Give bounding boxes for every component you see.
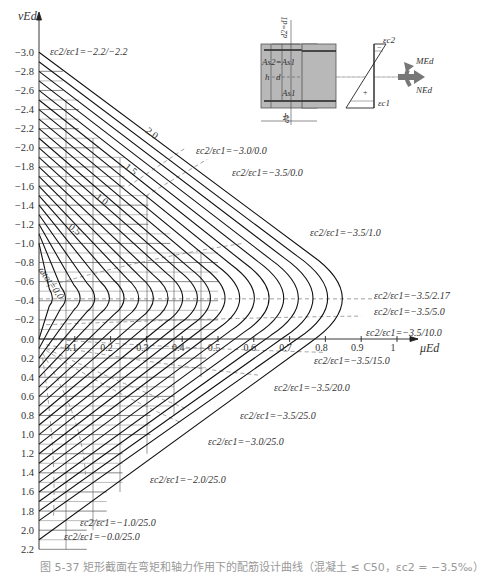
y-tick-label: −0.2 (15, 314, 34, 325)
x-tick-label: 0.8 (315, 342, 328, 353)
y-tick-label: 1.6 (21, 486, 34, 497)
y-tick-label: 1.8 (21, 506, 34, 517)
cross-section-diagram: As2=As1 As1 b h d d2=d1 d1 − + εc2 εc1 M… (261, 17, 434, 125)
y-tick-label: 2.2 (21, 544, 34, 555)
omega-label-0: ωtot=0.0 (36, 265, 66, 302)
y-tick-label: 0.4 (21, 372, 35, 383)
x-tick-label: 0.1 (65, 342, 78, 353)
y-tick-label: −1.8 (15, 161, 34, 172)
x-tick-label: 0.7 (279, 342, 292, 353)
x-tick-label: 0.2 (100, 342, 113, 353)
x-axis-label: μEd (419, 341, 440, 355)
y-tick-labels: −3.0−2.8−2.6−2.4−2.2−2.0−1.8−1.6−1.4−1.2… (15, 47, 35, 555)
x-tick-label: 0.4 (172, 342, 185, 353)
strain-label-3.5-2.17: εc2/εc1=−3.5/2.17 (374, 290, 451, 301)
figure-caption: 图 5-37 矩形截面在弯矩和轴力作用下的配筋设计曲线（混凝土 ≤ C50，εc… (40, 558, 481, 574)
strain-label-3.5-20.0: εc2/εc1=−3.5/20.0 (274, 382, 350, 393)
x-tick-label: 0.9 (351, 342, 364, 353)
y-tick-label: −1.0 (15, 238, 34, 249)
y-tick-label: 0.0 (21, 334, 34, 345)
m-ed-label: MEd (415, 56, 434, 66)
axial-arrow-shaft-icon (398, 74, 414, 80)
strain-label-3.0-0.0: εc2/εc1=−3.0/0.0 (196, 145, 267, 156)
ec2-label: εc2 (383, 35, 396, 45)
y-tick-label: −1.4 (15, 200, 35, 211)
strain-label-3.5-0.0: εc2/εc1=−3.5/0.0 (232, 167, 303, 178)
d1-label: d1 (282, 115, 291, 123)
ec1-label: εc1 (378, 98, 390, 108)
x-tick-label: 0.6 (244, 342, 257, 353)
d2-label: d2=d1 (280, 17, 289, 38)
y-tick-label: 1.4 (21, 467, 35, 478)
y-tick-label: −2.4 (15, 104, 35, 115)
y-tick-label: 1.0 (21, 429, 34, 440)
strain-label-top: εc2/εc1=−2.2/−2.2 (50, 46, 128, 57)
plus-sign: + (363, 88, 368, 97)
y-tick-label: −1.2 (15, 219, 34, 230)
omega-label-1.5: 1.5 (123, 161, 140, 177)
strain-label-3.5-10.0: εc2/εc1=−3.5/10.0 (366, 327, 442, 338)
x-tick-label: 1 (391, 342, 396, 353)
omega-label-0.5: 0.5 (67, 221, 84, 237)
strain-label-2.0-25.0: εc2/εc1=−2.0/25.0 (150, 474, 226, 485)
axial-arrowhead-icon (414, 70, 425, 84)
moment-arrowhead-icon (404, 62, 414, 72)
y-tick-label: −2.6 (15, 85, 34, 96)
strain-label-1.0-25.0: εc2/εc1=−1.0/25.0 (80, 517, 156, 528)
n-ed-label: NEd (415, 85, 433, 95)
x-tick-labels: 0.10.20.30.40.50.60.70.80.91 (65, 342, 396, 353)
strain-label-3.5-5.0: εc2/εc1=−3.5/5.0 (374, 306, 445, 317)
h-label: h (265, 72, 270, 82)
y-tick-label: −0.4 (15, 295, 35, 306)
y-tick-label: −3.0 (15, 47, 34, 58)
y-tick-label: −2.8 (15, 66, 34, 77)
as2-label: As2=As1 (261, 57, 295, 67)
minus-sign: − (377, 43, 382, 52)
y-tick-label: 0.6 (21, 391, 34, 402)
y-tick-label: −1.6 (15, 181, 34, 192)
y-tick-label: 1.2 (21, 448, 34, 459)
strain-label-3.5-1.0: εc2/εc1=−3.5/1.0 (310, 227, 381, 238)
as1-label: As1 (281, 88, 296, 98)
y-tick-label: 2.0 (21, 525, 34, 536)
y-tick-label: −2.0 (15, 142, 34, 153)
y-axis-label: νEd (18, 9, 38, 23)
y-tick-label: −0.6 (15, 276, 34, 287)
y-tick-label: 0.8 (21, 410, 34, 421)
strain-label-0.0-25.0: εc2/εc1=−0.0/25.0 (64, 531, 140, 542)
x-tick-label: 0.5 (208, 342, 221, 353)
strain-label-3.5-25.0: εc2/εc1=−3.5/25.0 (240, 410, 316, 421)
strain-label-3.0-25.0: εc2/εc1=−3.0/25.0 (208, 436, 284, 447)
omega-label-2.0: 2.0 (144, 125, 161, 141)
d-label: d (276, 72, 281, 82)
y-tick-label: 0.2 (21, 353, 34, 364)
strain-label-3.5-15.0: εc2/εc1=−3.5/15.0 (314, 355, 390, 366)
y-tick-label: −2.2 (15, 123, 34, 134)
y-tick-label: −0.8 (15, 257, 34, 268)
x-tick-label: 0.3 (136, 342, 149, 353)
section-rect-2 (302, 44, 336, 108)
